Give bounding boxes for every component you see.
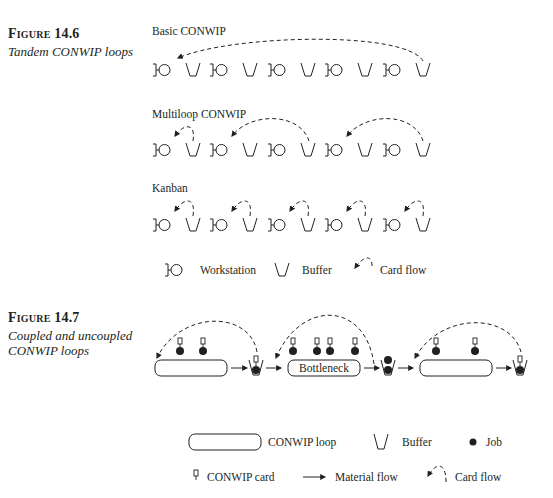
card-flow-icon <box>355 258 372 268</box>
multiloop-conwip-line <box>153 119 430 156</box>
job-icon <box>432 347 440 355</box>
conwip-card-icon <box>434 338 438 348</box>
workstation-icon <box>268 64 285 76</box>
workstation-icon <box>153 64 170 76</box>
legend-buffer-label: Buffer <box>302 264 332 276</box>
buffer-icon <box>301 218 315 231</box>
job-icon <box>384 366 392 374</box>
conwip-loop-box <box>420 360 492 376</box>
legend-card-flow-label: Card flow <box>455 471 502 483</box>
coupled-conwip-diagram: Bottleneck <box>155 315 527 376</box>
buffer-icon <box>301 63 315 76</box>
card-flow-arrow <box>175 127 194 141</box>
buffer-icon <box>186 218 200 231</box>
legend-material-flow-label: Material flow <box>335 471 399 483</box>
job-icon <box>471 347 479 355</box>
job-icon <box>289 347 297 355</box>
job-icon <box>199 347 207 355</box>
buffer-icon <box>358 218 372 231</box>
bottleneck-label: Bottleneck <box>299 362 349 374</box>
workstation-icon <box>153 219 170 231</box>
buffer-icon <box>301 143 315 156</box>
conwip-loop-icon <box>189 434 261 450</box>
card-flow-arrow <box>178 39 423 61</box>
conwip-card-icon <box>178 338 182 348</box>
legend-conwip-loop-label: CONWIP loop <box>268 436 337 449</box>
job-icon <box>516 366 524 374</box>
legend-workstation-label: Workstation <box>200 264 256 276</box>
card-flow-arrow <box>175 201 194 216</box>
figure-14-6-legend: Workstation Buffer Card flow <box>165 258 427 276</box>
buffer-icon <box>416 218 430 231</box>
workstation-icon <box>383 64 400 76</box>
job-icon <box>252 366 260 374</box>
job-icon <box>176 347 184 355</box>
workstation-icon <box>210 219 227 231</box>
workstation-icon <box>325 144 342 156</box>
buffer-icon <box>186 143 200 156</box>
conwip-card-icon <box>328 338 332 348</box>
workstation-icon <box>268 144 285 156</box>
card-flow-arrow <box>405 201 424 216</box>
workstation-icon <box>210 64 227 76</box>
conwip-card-icon <box>254 356 258 366</box>
card-flow-icon <box>428 466 446 482</box>
card-flow-arrow <box>347 119 423 141</box>
legend-card-flow-label: Card flow <box>380 264 427 276</box>
buffer-icon <box>186 63 200 76</box>
legend-job-label: Job <box>486 436 502 448</box>
diagram-canvas: Workstation Buffer Card flow Bottleneck <box>0 0 553 498</box>
job-icon <box>470 439 477 446</box>
buffer-icon <box>243 143 257 156</box>
card-flow-arrow <box>157 321 257 358</box>
workstation-icon <box>268 219 285 231</box>
conwip-card-icon <box>353 338 357 348</box>
buffer-icon <box>416 143 430 156</box>
conwip-card-icon <box>518 356 522 366</box>
buffer-icon <box>374 434 388 449</box>
buffer-icon <box>243 63 257 76</box>
job-icon <box>326 347 334 355</box>
basic-conwip-line <box>153 39 430 76</box>
job-icon <box>351 347 359 355</box>
job-icon <box>313 347 321 355</box>
workstation-icon <box>325 219 342 231</box>
conwip-card-icon <box>291 338 295 348</box>
buffer-icon <box>243 218 257 231</box>
legend-buffer-label: Buffer <box>402 436 432 448</box>
card-flow-arrow <box>232 201 251 216</box>
buffer-icon <box>275 263 289 276</box>
workstation-icon <box>210 144 227 156</box>
conwip-card-icon <box>201 338 205 348</box>
workstation-icon <box>153 144 170 156</box>
job-icon <box>384 356 392 364</box>
buffer-icon <box>416 63 430 76</box>
workstation-icon <box>165 264 182 276</box>
workstation-icon <box>383 219 400 231</box>
figure-14-7-legend: CONWIP loop Buffer Job CONWIP card Mater… <box>189 434 502 483</box>
card-flow-arrow <box>347 201 366 216</box>
buffer-icon <box>358 63 372 76</box>
card-flow-arrow <box>415 323 521 358</box>
buffer-icon <box>358 143 372 156</box>
kanban-line <box>153 201 430 231</box>
card-flow-arrow <box>232 119 309 141</box>
conwip-card-icon <box>473 338 477 348</box>
conwip-card-icon <box>194 470 198 480</box>
legend-conwip-card-label: CONWIP card <box>207 471 275 483</box>
workstation-icon <box>325 64 342 76</box>
card-flow-arrow <box>290 201 309 216</box>
conwip-loop-box <box>155 360 227 376</box>
workstation-icon <box>383 144 400 156</box>
conwip-card-icon <box>315 338 319 348</box>
